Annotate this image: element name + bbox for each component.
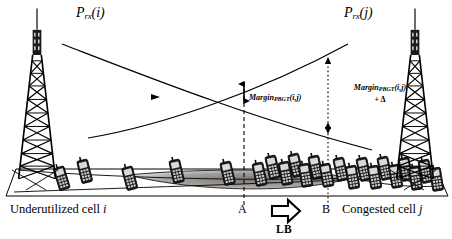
lb-arrow-icon (272, 200, 300, 222)
margin-delta-line2: + Δ (334, 96, 426, 104)
caption-cell-j: Congested cell j (342, 203, 423, 216)
point-a-label: A (238, 203, 247, 215)
prx-j-curve (88, 44, 348, 138)
point-b-label: B (322, 203, 330, 215)
margin-pbgt-label-a: MarginPBGT(i,j) (249, 94, 301, 102)
prx-j-label: Prx(j) (344, 6, 373, 21)
margin-delta-line1: MarginPBGT(i,j) (334, 84, 426, 92)
cellular-load-balancing-figure: Prx(i) Prx(j) MarginPBGT(i,j) MarginPBGT… (0, 0, 452, 239)
prx-i-label: Prx(i) (76, 6, 105, 21)
base-station-tower-cell-i (12, 9, 58, 190)
lb-label: LB (276, 224, 292, 236)
caption-cell-i: Underutilized cell i (10, 203, 107, 216)
margin-pbgt-delta-label-b: MarginPBGT(i,j) + Δ (334, 84, 426, 104)
